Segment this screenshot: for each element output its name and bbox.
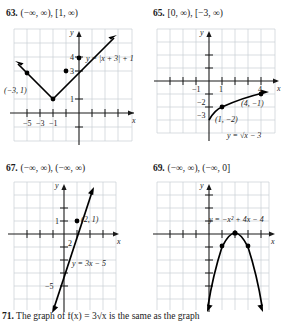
y-axis-arrow-63 <box>76 31 81 37</box>
answer-heading-69: 69.(−∞, ∞), (−∞, 0] <box>143 163 285 176</box>
y-axis-label-69: y <box>199 181 204 190</box>
x-tick-label-neg1: −1 <box>49 119 58 128</box>
y-tick-label-neg2: −2 <box>197 98 206 107</box>
curve-arrow-left-69 <box>207 305 213 312</box>
x-tick-label-neg5: −5 <box>23 119 32 128</box>
answer-interval-67: (−∞, ∞), (−∞, ∞) <box>21 163 86 173</box>
y-tick-label-1: 1 <box>55 217 59 226</box>
y-axis-arrow-67 <box>61 184 66 190</box>
equation-label-65: y = √x − 3 <box>226 131 261 140</box>
curve-arrow-up-67 <box>88 187 94 195</box>
grid-lines-69 <box>157 182 269 310</box>
answer-item-69: 69.(−∞, ∞), (−∞, 0] <box>143 163 285 318</box>
answer-number-63: 63. <box>6 8 18 18</box>
answer-heading-63: 63.(−∞, ∞), [1, ∞) <box>0 8 142 21</box>
curve-arrow-right-69 <box>257 305 263 312</box>
x-axis-arrow-65 <box>273 78 279 83</box>
curve-67 <box>54 192 92 308</box>
axes-69 <box>153 186 271 312</box>
y-axis-arrow-69 <box>206 184 211 190</box>
x-tick-label-2: 2 <box>68 239 72 248</box>
y-tick-label-3: 3 <box>70 67 74 76</box>
answer-interval-65: [0, ∞), [−3, ∞) <box>168 8 223 18</box>
x-axis-arrow-69 <box>269 231 275 236</box>
y-tick-label-neg5: −5 <box>45 282 54 291</box>
x-tick-label-1: 1 <box>219 85 223 94</box>
answer-key-page: 63.(−∞, ∞), [1, ∞) <box>0 0 285 322</box>
y-axis-label-65: y <box>199 28 204 37</box>
answer-item-63: 63.(−∞, ∞), [1, ∞) <box>0 8 142 163</box>
graph-69-svg: y = −x² + 4x − 4 x y <box>151 176 283 314</box>
y-axis-arrow-65 <box>206 31 211 37</box>
y-tick-label-neg3: −3 <box>197 111 206 120</box>
answer-heading-65: 65.[0, ∞), [−3, ∞) <box>143 8 285 21</box>
grid-lines-63 <box>14 29 132 141</box>
answer-item-67: 67.(−∞, ∞), (−∞, ∞) <box>0 163 142 318</box>
bottom-clipped-note: 71. The graph of f(x) = 3√x is the same … <box>0 312 285 322</box>
answer-number-65: 65. <box>153 8 165 18</box>
point-label-1-neg2: (1, −2) <box>215 115 238 124</box>
bottom-note-number: 71. <box>2 312 14 321</box>
graph-63: −5 −3 −1 4 3 1 (−3, 1) y = |x + 3| + 1 x… <box>4 21 140 159</box>
y-tick-label-1: 1 <box>70 95 74 104</box>
x-axis-label-69: x <box>270 237 275 246</box>
answer-heading-67: 67.(−∞, ∞), (−∞, ∞) <box>0 163 142 176</box>
x-axis-label-65: x <box>276 84 281 93</box>
graph-67-svg: 2 1 −5 (2, 1) y = 3x − 5 x y <box>4 176 134 314</box>
axes-67 <box>8 186 116 312</box>
x-tick-label-neg3: −3 <box>36 119 45 128</box>
grid-lines-67 <box>14 182 116 310</box>
answer-interval-63: (−∞, ∞), [1, ∞) <box>21 8 78 18</box>
x-axis-label-63: x <box>131 116 136 125</box>
answer-number-69: 69. <box>153 163 165 173</box>
bottom-note-text: The graph of f(x) = 3√x is the same as t… <box>16 312 199 321</box>
point-label-neg3-1: (−3, 1) <box>4 86 27 95</box>
x-axis-label-67: x <box>116 237 121 246</box>
point-label-4-neg1: (4, −1) <box>241 99 264 108</box>
x-axis-arrow-63 <box>128 110 134 115</box>
axes-63 <box>10 33 134 145</box>
graph-67: 2 1 −5 (2, 1) y = 3x − 5 x y <box>4 176 140 314</box>
plot-points-67 <box>75 219 80 224</box>
graph-69: y = −x² + 4x − 4 x y <box>151 176 285 314</box>
answer-item-65: 65.[0, ∞), [−3, ∞) <box>143 8 285 163</box>
graph-63-svg: −5 −3 −1 4 3 1 (−3, 1) y = |x + 3| + 1 x… <box>4 21 140 145</box>
graph-65: −1 1 4 −2 −3 (1, −2) (4, −1) y = √x − 3 … <box>151 21 285 159</box>
answer-number-67: 67. <box>6 163 18 173</box>
tick-labels-67: 2 1 −5 <box>45 217 72 291</box>
graph-65-svg: −1 1 4 −2 −3 (1, −2) (4, −1) y = √x − 3 … <box>151 21 283 145</box>
y-axis-label-63: y <box>69 28 74 37</box>
y-axis-label-67: y <box>54 181 59 190</box>
x-tick-label-neg1: −1 <box>192 85 201 94</box>
x-tick-label-4: 4 <box>258 85 262 94</box>
y-tick-label-4: 4 <box>70 53 74 62</box>
equation-label-69: y = −x² + 4x − 4 <box>208 215 264 224</box>
answer-interval-69: (−∞, ∞), (−∞, 0] <box>168 163 231 173</box>
equation-label-63: y = |x + 3| + 1 <box>85 54 134 63</box>
point-label-2-1: (2, 1) <box>81 215 99 224</box>
equation-label-67: y = 3x − 5 <box>71 259 106 268</box>
